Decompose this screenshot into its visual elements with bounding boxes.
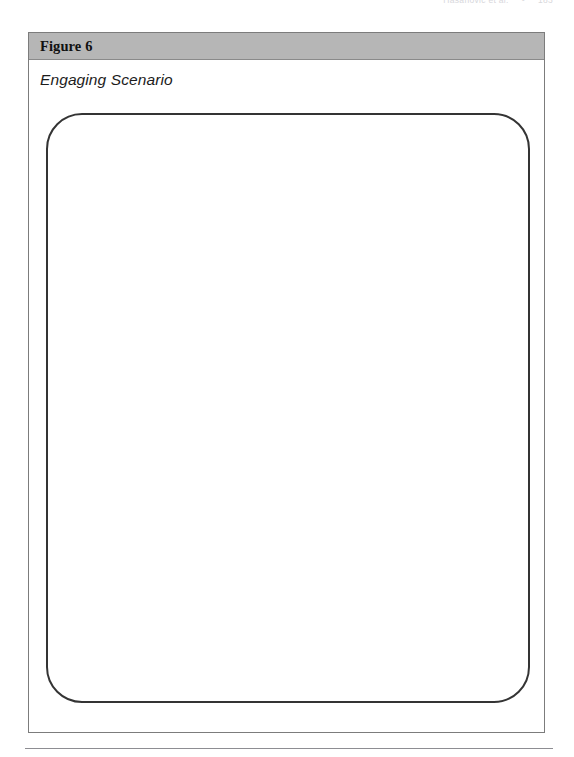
- footer-rule: [25, 748, 553, 749]
- figure-frame: Figure 6 Engaging Scenario: [28, 32, 545, 733]
- running-head-title: Hasanovic et al.: [443, 0, 508, 5]
- running-head-page-number: 183: [538, 0, 553, 5]
- figure-title-band: Figure 6: [29, 33, 544, 60]
- figure-caption: Engaging Scenario: [40, 71, 173, 89]
- document-page: Hasanovic et al. • 183 Figure 6 Engaging…: [0, 0, 574, 757]
- figure-content-box: [46, 113, 530, 703]
- running-head-separator: •: [522, 0, 525, 5]
- figure-number-label: Figure 6: [40, 38, 93, 55]
- running-head: Hasanovic et al. • 183: [443, 0, 553, 5]
